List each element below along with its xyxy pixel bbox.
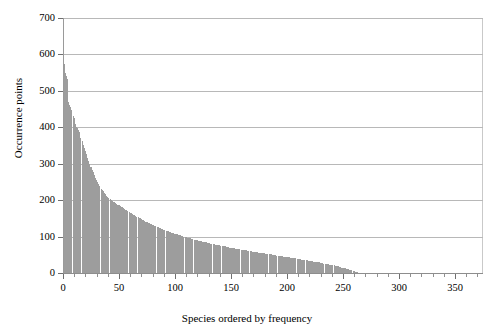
x-tick-label-150: 150 [211, 282, 251, 293]
x-tick-label-300: 300 [379, 282, 419, 293]
x-tick-minor-160 [242, 274, 243, 277]
x-axis-line [63, 273, 483, 274]
x-tick-major-300 [399, 274, 400, 279]
x-tick-label-200: 200 [267, 282, 307, 293]
x-tick-minor-170 [253, 274, 254, 277]
x-tick-minor-310 [410, 274, 411, 277]
x-tick-minor-220 [309, 274, 310, 277]
x-tick-minor-20 [85, 274, 86, 277]
chart-container: 0100200300400500600700 05010015020025030… [0, 0, 494, 335]
y-tick-200 [58, 200, 63, 201]
y-tick-100 [58, 237, 63, 238]
y-tick-400 [58, 127, 63, 128]
y-axis-line [63, 18, 64, 274]
y-tick-label-0: 0 [13, 268, 55, 279]
y-tick-600 [58, 54, 63, 55]
x-tick-minor-180 [265, 274, 266, 277]
x-tick-minor-320 [421, 274, 422, 277]
y-tick-label-700: 700 [13, 13, 55, 24]
x-axis-title: Species ordered by frequency [0, 312, 494, 324]
x-tick-minor-80 [153, 274, 154, 277]
x-tick-minor-340 [444, 274, 445, 277]
x-tick-major-150 [231, 274, 232, 279]
x-tick-major-200 [287, 274, 288, 279]
x-tick-major-250 [343, 274, 344, 279]
x-tick-label-250: 250 [323, 282, 363, 293]
x-tick-minor-240 [332, 274, 333, 277]
x-tick-minor-230 [321, 274, 322, 277]
x-tick-minor-120 [197, 274, 198, 277]
plot-area [63, 18, 483, 273]
x-tick-minor-130 [209, 274, 210, 277]
x-tick-minor-260 [354, 274, 355, 277]
x-tick-major-350 [455, 274, 456, 279]
y-tick-700 [58, 18, 63, 19]
y-tick-500 [58, 91, 63, 92]
x-tick-minor-280 [377, 274, 378, 277]
x-tick-major-100 [175, 274, 176, 279]
x-tick-minor-270 [365, 274, 366, 277]
x-tick-minor-210 [298, 274, 299, 277]
x-tick-label-350: 350 [435, 282, 475, 293]
x-tick-minor-360 [466, 274, 467, 277]
x-tick-label-100: 100 [155, 282, 195, 293]
bar-series [63, 18, 483, 273]
x-tick-minor-290 [388, 274, 389, 277]
x-tick-label-50: 50 [99, 282, 139, 293]
x-tick-minor-370 [477, 274, 478, 277]
x-tick-major-50 [119, 274, 120, 279]
x-tick-minor-40 [108, 274, 109, 277]
x-tick-minor-330 [433, 274, 434, 277]
y-tick-label-100: 100 [13, 232, 55, 243]
x-tick-major-0 [63, 274, 64, 279]
x-tick-minor-110 [186, 274, 187, 277]
x-tick-minor-140 [220, 274, 221, 277]
x-tick-label-0: 0 [43, 282, 83, 293]
x-tick-minor-10 [74, 274, 75, 277]
y-axis-title: Occurrence points [12, 38, 24, 198]
x-tick-minor-60 [130, 274, 131, 277]
x-tick-minor-30 [97, 274, 98, 277]
y-tick-300 [58, 164, 63, 165]
x-tick-minor-90 [164, 274, 165, 277]
x-tick-minor-190 [276, 274, 277, 277]
x-tick-minor-70 [141, 274, 142, 277]
